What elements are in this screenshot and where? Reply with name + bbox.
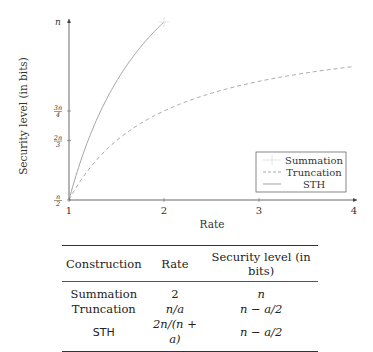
legend-summation: Summation xyxy=(285,155,343,166)
svg-text:2: 2 xyxy=(161,205,167,216)
cell-rate: 2 xyxy=(146,282,205,303)
svg-text:1: 1 xyxy=(66,205,72,216)
sth-curve xyxy=(69,22,164,200)
table-row: Truncation n/a n − a/2 xyxy=(62,302,318,317)
x-tick-labels: 1234 xyxy=(66,198,357,216)
security-rate-chart: 1234 n22n33n4n Security level (in bits) … xyxy=(0,0,373,240)
cell-construction: Summation xyxy=(62,282,146,303)
y-tick-labels: n22n33n4n xyxy=(53,17,71,208)
svg-text:4: 4 xyxy=(55,111,60,119)
cell-security: n xyxy=(204,282,318,303)
cell-rate: 2n/(n + a) xyxy=(146,317,205,352)
table-row: STH 2n/(n + a) n − a/2 xyxy=(62,317,318,352)
x-axis-title: Rate xyxy=(200,218,225,230)
legend-truncation: Truncation xyxy=(286,167,342,178)
svg-text:3: 3 xyxy=(256,205,262,216)
header-construction: Construction xyxy=(62,246,146,282)
cell-construction: Truncation xyxy=(62,302,146,317)
cell-security: n − a/2 xyxy=(204,302,318,317)
y-axis-title: Security level (in bits) xyxy=(17,57,29,175)
svg-text:n: n xyxy=(55,17,61,27)
table-row: Summation 2 n xyxy=(62,282,318,303)
cell-construction: STH xyxy=(62,317,146,352)
legend-sth: STH xyxy=(303,179,326,190)
legend: Summation Truncation STH xyxy=(256,152,346,192)
svg-text:2: 2 xyxy=(55,200,60,208)
svg-text:4: 4 xyxy=(351,205,357,216)
cell-rate: n/a xyxy=(146,302,205,317)
header-rate: Rate xyxy=(146,246,205,282)
comparison-table: Construction Rate Security level (in bit… xyxy=(62,245,318,352)
cell-security: n − a/2 xyxy=(204,317,318,352)
svg-text:3: 3 xyxy=(56,141,60,149)
header-security: Security level (in bits) xyxy=(204,246,318,282)
